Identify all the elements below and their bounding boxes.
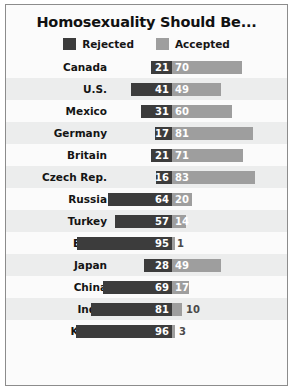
bar-rejected: 57 xyxy=(115,215,172,228)
chart-row: India8110 xyxy=(6,298,287,320)
chart-plot-area: Canada2170U.S.4149Mexico3160Germany1781B… xyxy=(6,56,287,342)
chart-row: Britain2171 xyxy=(6,144,287,166)
row-bars: 6420 xyxy=(6,188,287,210)
chart-row: China6917 xyxy=(6,276,287,298)
bar-value-rejected: 57 xyxy=(155,217,169,227)
legend-entry-rejected: Rejected xyxy=(63,38,134,50)
chart-legend: RejectedAccepted xyxy=(6,38,287,50)
row-bars: 5714 xyxy=(6,210,287,232)
bar-value-accepted: 49 xyxy=(175,85,189,95)
bar-accepted: 71 xyxy=(172,149,243,162)
bar-value-accepted: 20 xyxy=(175,195,189,205)
legend-entry-accepted: Accepted xyxy=(156,38,230,50)
bar-value-accepted: 71 xyxy=(175,151,189,161)
bar-value-rejected: 64 xyxy=(155,195,169,205)
bar-value-rejected: 21 xyxy=(155,63,169,73)
bar-accepted xyxy=(172,303,182,316)
bar-rejected: 28 xyxy=(144,259,172,272)
bar-rejected: 21 xyxy=(151,149,172,162)
legend-swatch-rejected xyxy=(63,38,76,50)
chart-figure: Homosexuality Should Be... RejectedAccep… xyxy=(5,4,288,386)
bar-accepted xyxy=(172,325,175,338)
bar-value-accepted: 17 xyxy=(175,283,189,293)
bar-accepted: 49 xyxy=(172,83,221,96)
bar-value-rejected: 41 xyxy=(155,85,169,95)
bar-rejected: 17 xyxy=(155,127,172,140)
bar-accepted: 20 xyxy=(172,193,192,206)
bar-rejected: 81 xyxy=(91,303,172,316)
bar-value-accepted: 81 xyxy=(175,129,189,139)
chart-row: U.S.4149 xyxy=(6,78,287,100)
chart-row: Germany1781 xyxy=(6,122,287,144)
bar-rejected: 41 xyxy=(131,83,172,96)
bar-value-rejected: 16 xyxy=(155,173,169,183)
row-bars: 2170 xyxy=(6,56,287,78)
row-bars: 2849 xyxy=(6,254,287,276)
row-bars: 4149 xyxy=(6,78,287,100)
bar-value-rejected: 96 xyxy=(155,327,169,337)
bar-value-rejected: 21 xyxy=(155,151,169,161)
bar-value-rejected: 69 xyxy=(155,283,169,293)
chart-row: Russia6420 xyxy=(6,188,287,210)
bar-value-accepted: 70 xyxy=(175,63,189,73)
bar-value-accepted: 49 xyxy=(175,261,189,271)
bar-rejected: 95 xyxy=(77,237,172,250)
bar-value-accepted: 1 xyxy=(177,237,184,250)
bar-value-accepted: 3 xyxy=(179,325,186,338)
bar-value-rejected: 81 xyxy=(155,305,169,315)
legend-label: Rejected xyxy=(82,38,134,50)
row-bars: 963 xyxy=(6,320,287,342)
bar-accepted: 83 xyxy=(172,171,255,184)
bar-rejected: 69 xyxy=(103,281,172,294)
bar-accepted: 17 xyxy=(172,281,189,294)
bar-accepted: 14 xyxy=(172,215,186,228)
chart-row: Czech Rep.1683 xyxy=(6,166,287,188)
row-bars: 1683 xyxy=(6,166,287,188)
bar-value-rejected: 31 xyxy=(155,107,169,117)
legend-label: Accepted xyxy=(175,38,230,50)
bar-value-accepted: 10 xyxy=(186,303,200,316)
bar-rejected: 96 xyxy=(76,325,172,338)
bar-value-accepted: 83 xyxy=(175,173,189,183)
bar-rejected: 16 xyxy=(156,171,172,184)
chart-row: Egypt951 xyxy=(6,232,287,254)
bar-rejected: 64 xyxy=(108,193,172,206)
legend-swatch-accepted xyxy=(156,38,169,50)
bar-value-rejected: 28 xyxy=(155,261,169,271)
chart-row: Turkey5714 xyxy=(6,210,287,232)
bar-value-rejected: 17 xyxy=(155,129,169,139)
chart-title: Homosexuality Should Be... xyxy=(6,14,287,30)
bar-rejected: 31 xyxy=(141,105,172,118)
bar-accepted: 49 xyxy=(172,259,221,272)
row-bars: 1781 xyxy=(6,122,287,144)
chart-row: Canada2170 xyxy=(6,56,287,78)
row-bars: 8110 xyxy=(6,298,287,320)
row-bars: 6917 xyxy=(6,276,287,298)
chart-row: Japan2849 xyxy=(6,254,287,276)
row-bars: 3160 xyxy=(6,100,287,122)
chart-row: Kenya963 xyxy=(6,320,287,342)
bar-rejected: 21 xyxy=(151,61,172,74)
bar-accepted: 60 xyxy=(172,105,232,118)
bar-value-accepted: 14 xyxy=(175,217,189,227)
bar-accepted xyxy=(172,237,175,250)
row-bars: 951 xyxy=(6,232,287,254)
bar-accepted: 81 xyxy=(172,127,253,140)
row-bars: 2171 xyxy=(6,144,287,166)
bar-accepted: 70 xyxy=(172,61,242,74)
bar-value-rejected: 95 xyxy=(155,239,169,249)
chart-row: Mexico3160 xyxy=(6,100,287,122)
bar-value-accepted: 60 xyxy=(175,107,189,117)
